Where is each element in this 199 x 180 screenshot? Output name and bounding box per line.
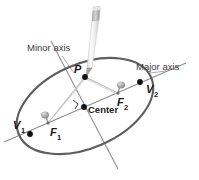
point-V2-dot (137, 79, 143, 85)
point-F1-dot (46, 121, 49, 124)
ellipse-diagram-canvas: Minor axis Major axis Center P V 1 V 2 F… (0, 0, 199, 180)
focus-1-label: F (50, 126, 57, 138)
string-strand-right (86, 79, 119, 95)
vertex-1-subscript: 1 (21, 126, 25, 135)
minor-axis-label: Minor axis (27, 42, 71, 53)
point-center-dot (81, 104, 87, 110)
focus-1-subscript: 1 (57, 133, 61, 142)
point-F2-dot (116, 91, 119, 94)
string-path (48, 77, 118, 123)
focus-2-label: F (117, 96, 124, 108)
point-p-label: P (74, 63, 82, 75)
focus-1-pin (41, 112, 49, 123)
vertex-2-subscript: 2 (154, 90, 158, 99)
pencil-eraser (93, 6, 100, 11)
major-axis-label: Major axis (136, 61, 180, 72)
right-angle-marker (73, 100, 78, 109)
point-V1-dot (27, 131, 33, 137)
center-label: Center (88, 104, 118, 115)
focus-2-subscript: 2 (124, 103, 128, 112)
pencil (86, 6, 100, 77)
ellipse-figure: Minor axis Major axis Center P V 1 V 2 F… (0, 0, 199, 180)
pencil-barrel (87, 19, 99, 68)
point-P-dot (82, 74, 88, 80)
major-axis-line (4, 63, 186, 142)
